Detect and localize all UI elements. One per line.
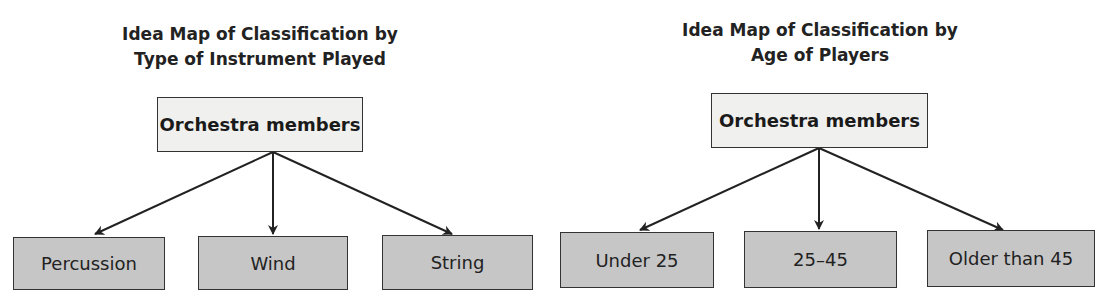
leaf-node-under-25: Under 25 bbox=[560, 232, 714, 288]
leaf-label: Older than 45 bbox=[949, 248, 1073, 269]
left-map-title: Idea Map of Classification by Type of In… bbox=[60, 22, 460, 72]
leaf-label: Percussion bbox=[41, 253, 137, 274]
left-title-line-2: Type of Instrument Played bbox=[60, 47, 460, 72]
right-root-label: Orchestra members bbox=[719, 110, 920, 131]
leaf-label: String bbox=[431, 252, 485, 273]
arrow-to-string bbox=[273, 152, 452, 234]
left-root-node: Orchestra members bbox=[157, 97, 363, 152]
left-root-label: Orchestra members bbox=[160, 114, 361, 135]
leaf-node-string: String bbox=[382, 235, 533, 290]
leaf-label: Under 25 bbox=[595, 250, 678, 271]
arrow-to-older-than-45 bbox=[819, 148, 1003, 230]
leaf-label: 25–45 bbox=[793, 249, 848, 270]
leaf-node-25-45: 25–45 bbox=[744, 231, 897, 288]
leaf-label: Wind bbox=[250, 253, 295, 274]
right-map-title: Idea Map of Classification by Age of Pla… bbox=[620, 18, 1020, 68]
left-title-line-1: Idea Map of Classification by bbox=[60, 22, 460, 47]
arrow-to-percussion bbox=[95, 152, 273, 234]
right-title-line-1: Idea Map of Classification by bbox=[620, 18, 1020, 43]
right-root-node: Orchestra members bbox=[711, 93, 928, 148]
leaf-node-older-than-45: Older than 45 bbox=[927, 230, 1095, 287]
leaf-node-wind: Wind bbox=[198, 236, 348, 290]
right-title-line-2: Age of Players bbox=[620, 43, 1020, 68]
leaf-node-percussion: Percussion bbox=[13, 237, 165, 290]
arrow-to-under-25 bbox=[640, 148, 819, 230]
